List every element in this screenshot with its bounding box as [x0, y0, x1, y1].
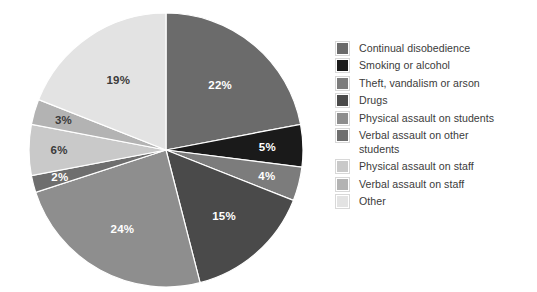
- legend-item-label: Physical assault on students: [359, 111, 494, 125]
- pie-chart-plot-area: 22%5%4%15%24%2%6%3%19%: [27, 11, 305, 289]
- legend-swatch-icon: [336, 59, 349, 72]
- pie-slice-label: 22%: [208, 79, 232, 91]
- legend-swatch-icon: [336, 112, 349, 125]
- legend-item[interactable]: Other: [336, 194, 536, 208]
- pie-slice-label: 24%: [111, 223, 135, 235]
- legend-item-label: Drugs: [359, 93, 388, 107]
- legend-item[interactable]: Verbal assault on staff: [336, 177, 536, 191]
- pie-slice-label: 15%: [212, 210, 236, 222]
- legend-item-label: Theft, vandalism or arson: [359, 76, 480, 90]
- pie-slice-label: 6%: [51, 144, 68, 156]
- legend-item[interactable]: Drugs: [336, 93, 536, 107]
- legend-item[interactable]: Physical assault on staff: [336, 159, 536, 173]
- legend-swatch-icon: [336, 77, 349, 90]
- legend-item[interactable]: Verbal assault on other students: [336, 128, 536, 156]
- pie-slice-label: 5%: [259, 141, 276, 153]
- chart-legend: Continual disobedienceSmoking or alcohol…: [336, 41, 536, 212]
- legend-swatch-icon: [336, 129, 349, 142]
- legend-item[interactable]: Physical assault on students: [336, 111, 536, 125]
- legend-swatch-icon: [336, 195, 349, 208]
- pie-slice-label: 19%: [106, 74, 130, 86]
- legend-item-label: Other: [359, 194, 386, 208]
- legend-item-label: Physical assault on staff: [359, 159, 474, 173]
- pie-chart-svg: 22%5%4%15%24%2%6%3%19%: [27, 11, 305, 289]
- legend-item-label: Verbal assault on staff: [359, 177, 464, 191]
- pie-slice-label: 2%: [51, 171, 68, 183]
- pie-slice-label: 4%: [258, 170, 275, 182]
- legend-item-label: Continual disobedience: [359, 41, 470, 55]
- legend-swatch-icon: [336, 94, 349, 107]
- legend-item[interactable]: Continual disobedience: [336, 41, 536, 55]
- legend-swatch-icon: [336, 160, 349, 173]
- legend-swatch-icon: [336, 42, 349, 55]
- legend-swatch-icon: [336, 178, 349, 191]
- pie-slice-label: 3%: [55, 114, 72, 126]
- legend-item[interactable]: Theft, vandalism or arson: [336, 76, 536, 90]
- legend-item-label: Smoking or alcohol: [359, 58, 450, 72]
- pie-chart-figure: 22%5%4%15%24%2%6%3%19% Continual disobed…: [0, 0, 537, 292]
- legend-item[interactable]: Smoking or alcohol: [336, 58, 536, 72]
- legend-item-label: Verbal assault on other students: [359, 128, 469, 156]
